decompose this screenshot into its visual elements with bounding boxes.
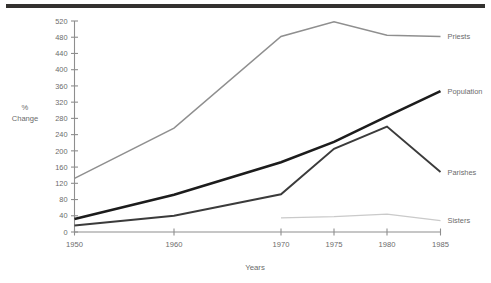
- line-chart: 04080120160200240280320360400440480520 1…: [0, 0, 491, 283]
- y-tick-label: 520: [55, 17, 67, 26]
- y-tick-label: 0: [63, 228, 67, 237]
- y-tick-label: 280: [55, 114, 67, 123]
- series-label-sisters: Sisters: [448, 216, 471, 225]
- x-tick-label: 1960: [166, 240, 183, 249]
- chart-figure: 04080120160200240280320360400440480520 1…: [0, 0, 491, 283]
- y-tick-label: 360: [55, 82, 67, 91]
- y-tick-label: 80: [59, 195, 67, 204]
- series-line-priests: [75, 22, 441, 179]
- y-axis-title-line-1: %: [22, 103, 29, 112]
- x-tick-label: 1980: [379, 240, 396, 249]
- series-label-population: Population: [448, 87, 483, 96]
- y-tick-label: 320: [55, 98, 67, 107]
- y-tick-label: 200: [55, 147, 67, 156]
- x-tick-label: 1950: [66, 240, 83, 249]
- y-tick-label: 40: [59, 211, 67, 220]
- x-tick-label: 1970: [273, 240, 290, 249]
- y-tick-label: 160: [55, 163, 67, 172]
- y-axis-title-line-2: Change: [12, 114, 39, 123]
- series-label-priests: Priests: [448, 32, 471, 41]
- x-tick-label: 1985: [432, 240, 449, 249]
- y-tick-label: 240: [55, 130, 67, 139]
- y-tick-label: 480: [55, 33, 67, 42]
- series-label-parishes: Parishes: [448, 168, 477, 177]
- series-lines: [75, 22, 441, 226]
- series-line-parishes: [75, 127, 441, 226]
- series-line-sisters: [281, 214, 441, 220]
- y-tick-label: 120: [55, 179, 67, 188]
- series-labels: PriestsPopulationParishesSisters: [448, 32, 483, 225]
- x-axis-title: Years: [245, 263, 265, 272]
- y-tick-label: 440: [55, 49, 67, 58]
- y-tick-label: 400: [55, 65, 67, 74]
- x-tick-label: 1975: [326, 240, 343, 249]
